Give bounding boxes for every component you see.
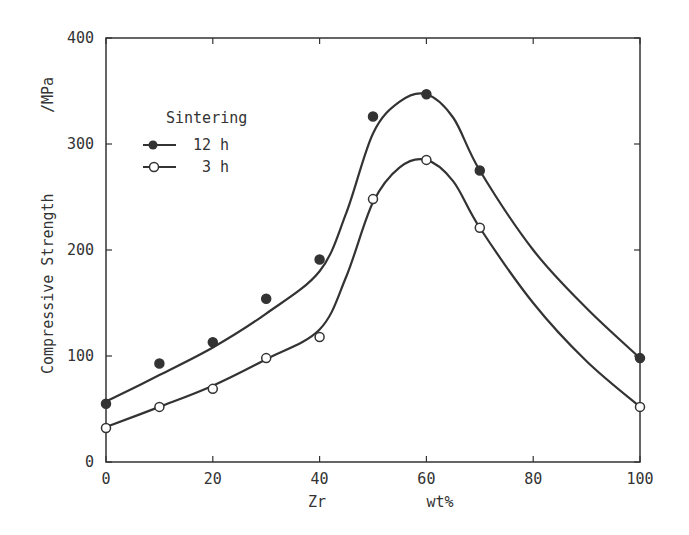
filled-circle-marker	[475, 166, 484, 175]
y-axis-ticks: 0100200300400	[67, 29, 640, 471]
y-axis-unit: /MPa	[39, 77, 57, 113]
filled-circle-icon	[149, 141, 158, 150]
y-tick-label: 100	[67, 347, 94, 365]
y-tick-label: 0	[85, 453, 94, 471]
open-circle-marker	[636, 402, 645, 411]
x-tick-label: 60	[417, 470, 435, 488]
legend-label-3h: 3 h	[202, 158, 229, 176]
x-axis-label: Zr	[308, 493, 326, 511]
filled-circle-marker	[155, 359, 164, 368]
x-tick-label: 0	[101, 470, 110, 488]
y-tick-label: 200	[67, 241, 94, 259]
open-circle-marker	[475, 223, 484, 232]
open-circle-marker	[315, 332, 324, 341]
legend: Sintering 12 h 3 h	[143, 109, 247, 176]
y-axis-label: Compressive Strength	[39, 193, 57, 374]
y-tick-label: 400	[67, 29, 94, 47]
open-circle-marker	[422, 155, 431, 164]
open-circle-marker	[369, 195, 378, 204]
series-markers	[102, 90, 645, 433]
series-line	[106, 93, 640, 401]
compressive-strength-chart: 020406080100 0100200300400 Zr wt% Compre…	[0, 0, 689, 535]
series-curves	[106, 93, 640, 427]
x-tick-label: 80	[524, 470, 542, 488]
open-circle-marker	[208, 384, 217, 393]
x-tick-label: 40	[311, 470, 329, 488]
open-circle-marker	[102, 424, 111, 433]
open-circle-icon	[150, 163, 159, 172]
open-circle-marker	[155, 402, 164, 411]
x-tick-label: 20	[204, 470, 222, 488]
filled-circle-marker	[636, 354, 645, 363]
x-axis-ticks: 020406080100	[101, 38, 653, 488]
filled-circle-marker	[315, 255, 324, 264]
legend-title: Sintering	[166, 109, 247, 127]
filled-circle-marker	[208, 338, 217, 347]
plot-frame	[106, 38, 640, 462]
x-axis-unit: wt%	[426, 493, 453, 511]
filled-circle-marker	[102, 399, 111, 408]
x-tick-label: 100	[626, 470, 653, 488]
y-tick-label: 300	[67, 135, 94, 153]
legend-label-12h: 12 h	[193, 136, 229, 154]
filled-circle-marker	[422, 90, 431, 99]
open-circle-marker	[262, 354, 271, 363]
filled-circle-marker	[262, 294, 271, 303]
filled-circle-marker	[369, 112, 378, 121]
